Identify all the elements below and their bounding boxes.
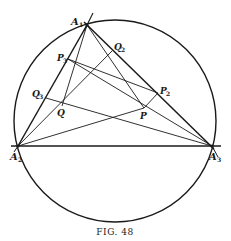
svg-text:A: A (70, 16, 79, 27)
line-a1-q (62, 25, 87, 106)
line-a1-p (87, 25, 144, 108)
tangent-at-a1 (84, 13, 93, 31)
svg-text:2: 2 (18, 156, 22, 163)
svg-text:A: A (9, 151, 18, 162)
point-a1 (85, 23, 88, 26)
label-p: P (139, 111, 147, 121)
label-p3: P 3 (56, 53, 67, 64)
figure-48-diagram: A 1 A 2 A 3 Q 2 P 3 P 2 Q 3 Q P FIG. 48 (0, 0, 231, 241)
label-q: Q (57, 108, 65, 118)
label-q2: Q 2 (114, 42, 125, 53)
label-a1: A 1 (70, 16, 83, 28)
svg-text:2: 2 (166, 90, 170, 97)
line-p3-p2 (68, 59, 158, 93)
svg-text:2: 2 (121, 46, 125, 53)
svg-text:3: 3 (63, 57, 67, 64)
label-a2: A 2 (9, 151, 22, 163)
line-a3-p3 (68, 59, 212, 146)
label-a3: A 3 (208, 151, 221, 163)
side-a1-a3 (84, 22, 214, 149)
label-p2: P 2 (159, 86, 170, 97)
point-a3 (210, 144, 213, 147)
svg-text:P: P (139, 111, 147, 121)
svg-text:Q: Q (57, 108, 65, 118)
line-p-p2 (144, 93, 158, 108)
svg-text:3: 3 (39, 93, 43, 100)
label-q3: Q 3 (32, 89, 43, 100)
figure-caption: FIG. 48 (96, 227, 133, 237)
point-a2 (16, 144, 19, 147)
svg-text:A: A (208, 151, 217, 162)
svg-text:3: 3 (217, 156, 221, 163)
svg-text:1: 1 (79, 21, 83, 28)
